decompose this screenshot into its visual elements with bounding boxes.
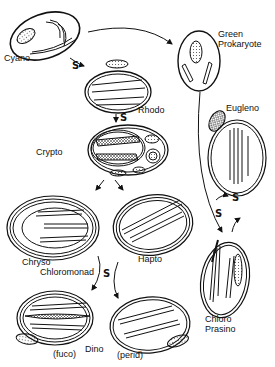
label-crypto: Crypto bbox=[36, 148, 63, 157]
diagram-canvas bbox=[0, 0, 275, 367]
label-prasino: Prasino bbox=[205, 325, 236, 334]
chloro-cell bbox=[195, 238, 255, 321]
symbiosis-marker: S bbox=[72, 60, 79, 71]
label-green: Green bbox=[218, 30, 243, 39]
chryso-cell bbox=[7, 196, 99, 260]
crypto-cell bbox=[88, 125, 168, 176]
symbiosis-marker: S bbox=[120, 112, 127, 123]
label-chloro: Chloro bbox=[205, 315, 232, 324]
arrow-hapto-dino bbox=[114, 262, 118, 298]
green-prokaryote-cell bbox=[178, 31, 220, 91]
arrow-cyano-green bbox=[88, 28, 172, 44]
arrow-chloro-eugleno bbox=[216, 196, 228, 201]
label-rhodo: Rhodo bbox=[138, 106, 165, 115]
label-cyano: Cyano bbox=[4, 54, 30, 63]
eugleno-cell bbox=[205, 108, 266, 196]
label-fuco: (fuco) bbox=[53, 350, 76, 359]
endosymbiosis-diagram: Cyano Green Prokaryote Rhodo Crypto Eugl… bbox=[0, 0, 275, 367]
symbiosis-marker: S bbox=[215, 208, 222, 219]
symbiosis-marker: S bbox=[232, 192, 239, 203]
dino-fuco-cell bbox=[15, 291, 93, 346]
label-perid: (perid) bbox=[117, 351, 143, 360]
symbiosis-marker: S bbox=[103, 268, 110, 279]
label-chloromonad: Chloromonad bbox=[40, 268, 94, 277]
hapto-cell bbox=[108, 189, 197, 262]
label-chryso: Chryso bbox=[22, 258, 51, 267]
arrow-crypto-chryso bbox=[96, 180, 104, 190]
arrow-chloro-eugleno-2 bbox=[232, 218, 240, 232]
dino-perid-cell bbox=[108, 294, 193, 357]
label-hapto: Hapto bbox=[138, 255, 162, 264]
label-prokaryote: Prokaryote bbox=[218, 40, 262, 49]
label-eugleno: Eugleno bbox=[226, 104, 259, 113]
label-dino: Dino bbox=[85, 345, 104, 354]
arrow-crypto-hapto bbox=[115, 180, 123, 190]
